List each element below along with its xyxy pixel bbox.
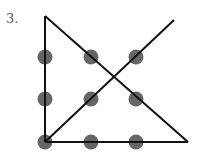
grid-dot [129,92,144,107]
connecting-line [45,20,174,142]
nine-dot-diagram [0,0,202,160]
connecting-line [45,16,188,142]
